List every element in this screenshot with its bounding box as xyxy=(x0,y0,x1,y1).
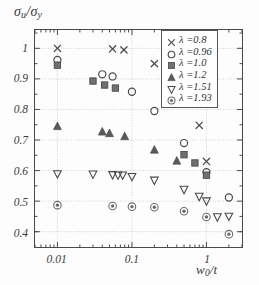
y-tick-label: 0.6 xyxy=(0,165,28,177)
y-tick-label: 0.7 xyxy=(0,134,28,146)
legend-marker-icon xyxy=(165,46,178,57)
legend-item[interactable]: λ =1.2 xyxy=(165,69,212,81)
legend-label: λ =1.93 xyxy=(179,92,212,103)
y-tick-label: 0.5 xyxy=(0,196,28,208)
legend-marker-icon xyxy=(165,69,178,80)
legend-label: λ =1.51 xyxy=(179,81,212,92)
legend-item[interactable]: λ =1.93 xyxy=(165,92,212,104)
legend-label: λ =0.96 xyxy=(179,46,212,57)
x-axis-title-over-t: /t xyxy=(210,262,218,277)
y-axis-title-sigma-y: σy xyxy=(30,4,42,19)
legend-marker-icon xyxy=(165,57,178,68)
series-3 xyxy=(54,122,181,164)
legend-marker-icon xyxy=(165,81,178,92)
series-5 xyxy=(54,201,233,238)
x-tick-label: 0.1 xyxy=(125,253,139,265)
y-axis-title-sigma-u: σu xyxy=(14,4,26,19)
legend-label: λ =0.8 xyxy=(179,34,206,45)
legend-item[interactable]: λ =1.51 xyxy=(165,80,212,92)
y-tick-label: 0.8 xyxy=(0,103,28,115)
x-tick-label: 0.01 xyxy=(47,253,67,265)
legend-item[interactable]: λ =1.0 xyxy=(165,57,212,69)
y-axis-title-subscript-y: y xyxy=(38,9,43,20)
y-tick-label: 1 xyxy=(0,42,28,54)
legend: λ =0.8λ =0.96λ =1.0λ =1.2λ =1.51λ =1.93 xyxy=(161,30,218,108)
legend-item[interactable]: λ =0.8 xyxy=(165,34,212,46)
legend-label: λ =1.2 xyxy=(179,69,206,80)
legend-marker-icon xyxy=(165,34,178,45)
legend-marker-icon xyxy=(165,92,178,103)
y-tick-label: 0.4 xyxy=(0,227,28,239)
y-tick-label: 0.9 xyxy=(0,72,28,84)
legend-item[interactable]: λ =0.96 xyxy=(165,46,212,58)
legend-label: λ =1.0 xyxy=(179,57,206,68)
chart-figure: σu/σy w0/t 10.90.80.70.60.50.4 0.010.11 … xyxy=(0,0,259,285)
y-axis-title: σu/σy xyxy=(14,4,42,20)
x-tick-label: 1 xyxy=(204,253,210,265)
